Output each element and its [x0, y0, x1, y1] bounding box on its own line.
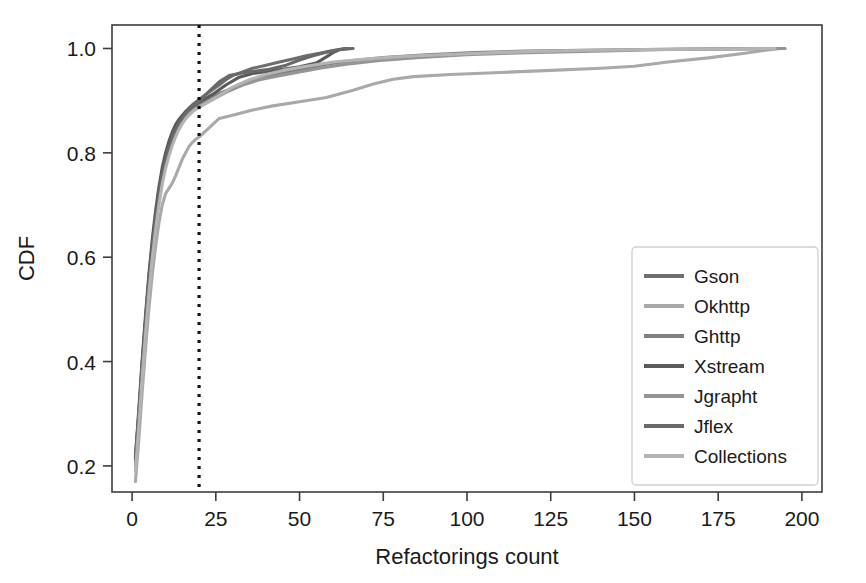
x-tick-label: 100 [449, 507, 484, 530]
legend-label-jflex: Jflex [694, 416, 734, 437]
y-tick-label: 0.8 [67, 142, 96, 165]
x-tick-label: 175 [701, 507, 736, 530]
x-axis-title: Refactorings count [375, 544, 558, 569]
series-line-jflex [135, 48, 353, 459]
chart-canvas: 02550751001251501752000.20.40.60.81.0Ref… [0, 0, 866, 583]
y-tick-label: 0.4 [67, 351, 97, 374]
legend-label-collections: Collections [694, 446, 787, 467]
y-axis-title: CDF [14, 236, 39, 281]
x-tick-label: 50 [288, 507, 311, 530]
x-tick-label: 150 [617, 507, 652, 530]
x-tick-label: 200 [784, 507, 819, 530]
legend-label-okhttp: Okhttp [694, 296, 750, 317]
series-line-gson [135, 48, 349, 458]
y-tick-label: 1.0 [67, 37, 96, 60]
legend-label-jgrapht: Jgrapht [694, 386, 758, 407]
legend-label-xstream: Xstream [694, 356, 765, 377]
x-tick-label: 125 [533, 507, 568, 530]
x-tick-label: 0 [126, 507, 138, 530]
legend-label-ghttp: Ghttp [694, 326, 740, 347]
x-tick-label: 75 [372, 507, 395, 530]
cdf-chart-figure: 02550751001251501752000.20.40.60.81.0Ref… [0, 0, 866, 583]
y-tick-label: 0.6 [67, 246, 96, 269]
y-tick-label: 0.2 [67, 455, 96, 478]
series-line-xstream [135, 48, 346, 456]
x-tick-label: 25 [204, 507, 227, 530]
legend-label-gson: Gson [694, 266, 739, 287]
